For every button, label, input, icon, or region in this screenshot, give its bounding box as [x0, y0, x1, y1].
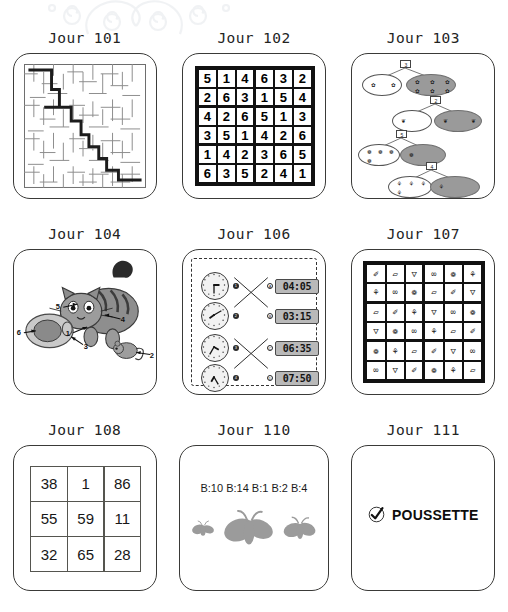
grid-cell[interactable]: 55	[30, 501, 68, 537]
analog-clock[interactable]	[201, 302, 229, 330]
sudoku-cell[interactable]: 6	[198, 164, 217, 183]
paper-icon[interactable]: ▱	[405, 341, 424, 360]
pair-row[interactable]: 3✿✿✿✿✿✿✿✿	[356, 66, 490, 100]
glasses-icon[interactable]: ∞	[444, 303, 463, 322]
glasses-icon[interactable]: ∞	[405, 322, 424, 341]
underwear-icon[interactable]: ▽	[444, 341, 463, 360]
analog-clock[interactable]	[201, 272, 229, 300]
time-node[interactable]: B	[267, 313, 273, 319]
sudoku-cell[interactable]: 1	[217, 69, 236, 88]
puzzle-card[interactable]: POUSSETTE	[351, 445, 495, 591]
pair-ellipse-right[interactable]: ❁	[400, 144, 446, 166]
pencil-icon[interactable]: ✐	[463, 322, 482, 341]
puzzle-card[interactable]: 1 2 3 4 5 6	[13, 249, 157, 395]
butterfly-icon[interactable]: ❁	[386, 322, 405, 341]
pair-ellipse-left[interactable]: ⚘⚘⚘⚘	[388, 176, 432, 198]
underwear-icon[interactable]: ▽	[366, 322, 385, 341]
sudoku-cell[interactable]: 5	[236, 164, 255, 183]
digital-time[interactable]: 07:50	[275, 371, 319, 386]
glasses-icon[interactable]: ∞	[366, 361, 385, 380]
sudoku-cell[interactable]: 2	[274, 126, 293, 145]
flower-icon[interactable]: ⚘	[366, 283, 385, 302]
sudoku-cell[interactable]: 5	[198, 69, 217, 88]
sudoku-cell[interactable]: 1	[293, 164, 312, 183]
sudoku-cell[interactable]: 4	[198, 107, 217, 126]
sudoku-cell[interactable]: 6	[217, 88, 236, 107]
puzzle-card[interactable]: ✐▱▽∞❁⚘⚘∞❁▱✐▽▱✐⚘▽∞❁▽❁∞⚘▱✐❁⚘▱✐▽∞∞▽✐❁⚘▱	[351, 249, 495, 395]
sudoku-cell[interactable]: 2	[293, 69, 312, 88]
grid-cell[interactable]: 1	[67, 466, 105, 502]
analog-clock[interactable]	[201, 334, 229, 362]
sudoku-cell[interactable]: 2	[255, 164, 274, 183]
paper-icon[interactable]: ▱	[444, 322, 463, 341]
paper-icon[interactable]: ▱	[463, 361, 482, 380]
clock-node[interactable]: 2	[233, 313, 239, 319]
pair-row[interactable]: 4⚘⚘⚘⚘⚘	[356, 168, 490, 199]
number-grid-3x3[interactable]: 38186555911326528	[31, 466, 141, 572]
glasses-icon[interactable]: ∞	[386, 283, 405, 302]
pair-ellipse-left[interactable]: ❁❁❁❁	[358, 144, 400, 166]
underwear-icon[interactable]: ▽	[463, 283, 482, 302]
sudoku-cell[interactable]: 4	[274, 164, 293, 183]
butterfly-icon[interactable]: ❁	[444, 264, 463, 283]
grid-cell[interactable]: 11	[104, 501, 142, 537]
pair-ellipse-right[interactable]: ✿✿✿✿✿✿	[406, 74, 456, 96]
glasses-icon[interactable]: ∞	[424, 264, 443, 283]
clock-node[interactable]: 1	[233, 283, 239, 289]
sudoku-cell[interactable]: 4	[255, 126, 274, 145]
time-node[interactable]: C	[267, 345, 273, 351]
puzzle-card[interactable]	[13, 53, 157, 199]
puzzle-card[interactable]: 3✿✿✿✿✿✿✿✿2❦❦❦5❁❁❁❁❁4⚘⚘⚘⚘⚘	[351, 53, 495, 199]
analog-clock[interactable]	[201, 364, 229, 392]
digital-time[interactable]: 03:15	[275, 309, 319, 324]
flower-icon[interactable]: ⚘	[424, 322, 443, 341]
flower-icon[interactable]: ⚘	[463, 264, 482, 283]
paper-icon[interactable]: ▱	[366, 303, 385, 322]
clock-node[interactable]: 3	[233, 345, 239, 351]
sudoku-cell[interactable]: 2	[198, 88, 217, 107]
puzzle-card[interactable]: 1234 04:05A03:15B06:35C07:50D	[182, 249, 326, 395]
sudoku-cell[interactable]: 3	[293, 107, 312, 126]
glasses-icon[interactable]: ∞	[463, 341, 482, 360]
sudoku-cell[interactable]: 4	[236, 69, 255, 88]
sudoku-cell[interactable]: 1	[198, 145, 217, 164]
sudoku-cell[interactable]: 3	[198, 126, 217, 145]
puzzle-card[interactable]: 38186555911326528	[13, 445, 157, 591]
number-sudoku-grid[interactable]: 514632263154426513351426142365635241	[195, 66, 315, 186]
underwear-icon[interactable]: ▽	[386, 361, 405, 380]
clock-node[interactable]: 4	[233, 375, 239, 381]
pencil-icon[interactable]: ✐	[386, 303, 405, 322]
pair-row[interactable]: 2❦❦❦	[356, 102, 490, 136]
puzzle-card[interactable]: B:10 B:14 B:1 B:2 B:4	[179, 445, 329, 591]
sudoku-cell[interactable]: 4	[293, 88, 312, 107]
grid-cell[interactable]: 28	[104, 536, 142, 572]
sudoku-cell[interactable]: 3	[236, 88, 255, 107]
sudoku-cell[interactable]: 5	[217, 126, 236, 145]
grid-cell[interactable]: 65	[67, 536, 105, 572]
butterfly-icon[interactable]: ❁	[405, 283, 424, 302]
matching-pairs-diagram[interactable]: 3✿✿✿✿✿✿✿✿2❦❦❦5❁❁❁❁❁4⚘⚘⚘⚘⚘	[356, 58, 490, 194]
sudoku-cell[interactable]: 2	[217, 107, 236, 126]
flower-icon[interactable]: ⚘	[386, 341, 405, 360]
sudoku-cell[interactable]: 5	[255, 107, 274, 126]
sudoku-cell[interactable]: 3	[217, 164, 236, 183]
sudoku-cell[interactable]: 4	[217, 145, 236, 164]
sudoku-cell[interactable]: 6	[274, 145, 293, 164]
underwear-icon[interactable]: ▽	[405, 264, 424, 283]
flower-icon[interactable]: ⚘	[405, 303, 424, 322]
sudoku-cell[interactable]: 5	[293, 145, 312, 164]
sudoku-cell[interactable]: 6	[236, 107, 255, 126]
sudoku-cell[interactable]: 1	[236, 126, 255, 145]
icon-sudoku-grid[interactable]: ✐▱▽∞❁⚘⚘∞❁▱✐▽▱✐⚘▽∞❁▽❁∞⚘▱✐❁⚘▱✐▽∞∞▽✐❁⚘▱	[363, 261, 485, 383]
puzzle-card[interactable]: 514632263154426513351426142365635241	[182, 53, 326, 199]
pair-ellipse-right[interactable]: ⚘	[430, 176, 480, 198]
underwear-icon[interactable]: ▽	[424, 303, 443, 322]
pencil-icon[interactable]: ✐	[444, 283, 463, 302]
pair-ellipse-right[interactable]: ❦❦	[434, 110, 482, 132]
sudoku-cell[interactable]: 1	[274, 107, 293, 126]
sudoku-cell[interactable]: 6	[293, 126, 312, 145]
butterfly-icon[interactable]: ❁	[424, 361, 443, 380]
grid-cell[interactable]: 32	[30, 536, 68, 572]
sudoku-cell[interactable]: 3	[274, 69, 293, 88]
pencil-icon[interactable]: ✐	[405, 361, 424, 380]
